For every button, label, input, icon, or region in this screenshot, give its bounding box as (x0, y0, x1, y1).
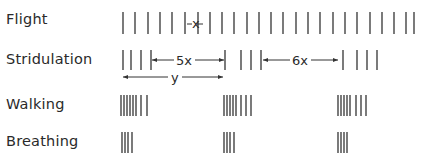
arrowhead-icon (123, 75, 128, 79)
arrowhead-icon (263, 58, 268, 62)
y-period-label: y (171, 70, 179, 85)
timing-diagram: x 5x 6x y (0, 0, 440, 165)
walking-bursts (121, 95, 366, 116)
arrowhead-icon (219, 58, 224, 62)
breathing-bursts (122, 132, 347, 153)
x-interval-label: x (192, 16, 200, 31)
arrowhead-icon (333, 58, 338, 62)
5x-gap-label: 5x (176, 53, 192, 68)
arrowhead-icon (152, 58, 157, 62)
flight-ticks (123, 12, 414, 34)
interval-annotations: x 5x 6x y (123, 16, 338, 85)
6x-gap-label: 6x (292, 53, 308, 68)
arrowhead-icon (218, 75, 223, 79)
